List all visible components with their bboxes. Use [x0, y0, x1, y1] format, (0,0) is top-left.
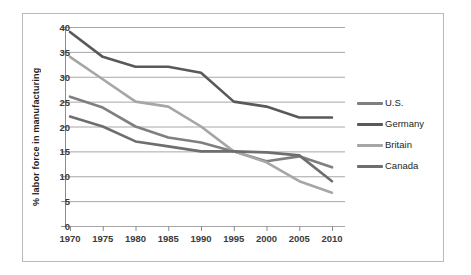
legend-item-britain[interactable]: Britain	[357, 138, 412, 152]
y-tick-label-5: 5	[44, 196, 70, 207]
legend-swatch-icon	[357, 102, 383, 105]
y-tick-label-10: 10	[44, 171, 70, 182]
y-tick-label-30: 30	[44, 71, 70, 82]
legend-label: Britain	[385, 138, 412, 152]
legend-label: Canada	[385, 159, 418, 173]
x-tick-label-1970: 1970	[59, 233, 80, 244]
legend-label: U.S.	[385, 96, 403, 110]
y-tick-label-0: 0	[44, 221, 70, 232]
y-tick-label-15: 15	[44, 146, 70, 157]
chart-figure: % labor force in manufacturing 051015202…	[0, 0, 471, 275]
legend-swatch-icon	[357, 144, 383, 147]
x-tick-label-1980: 1980	[125, 233, 146, 244]
y-tick-label-40: 40	[44, 22, 70, 33]
legend-label: Germany	[385, 117, 424, 131]
chart-legend: U.S.GermanyBritainCanada	[357, 96, 445, 174]
x-axis-tick-labels: 197019751980198519901995200020052010	[0, 233, 471, 249]
legend-swatch-icon	[357, 165, 383, 168]
legend-swatch-icon	[357, 123, 383, 126]
series-line-germany	[70, 32, 332, 118]
y-axis-title: % labor force in manufacturing	[29, 52, 43, 222]
legend-item-germany[interactable]: Germany	[357, 117, 424, 131]
x-tick-label-1995: 1995	[223, 233, 244, 244]
legend-item-canada[interactable]: Canada	[357, 159, 418, 173]
series-line-u-s	[70, 97, 332, 168]
legend-item-u-s[interactable]: U.S.	[357, 96, 403, 110]
x-tick-label-1975: 1975	[92, 233, 113, 244]
y-tick-label-25: 25	[44, 96, 70, 107]
x-tick-label-2005: 2005	[289, 233, 310, 244]
x-tick-label-2010: 2010	[321, 233, 342, 244]
y-tick-label-35: 35	[44, 46, 70, 57]
x-tick-label-1985: 1985	[158, 233, 179, 244]
x-tick-label-1990: 1990	[190, 233, 211, 244]
x-tick-label-2000: 2000	[256, 233, 277, 244]
y-tick-label-20: 20	[44, 121, 70, 132]
